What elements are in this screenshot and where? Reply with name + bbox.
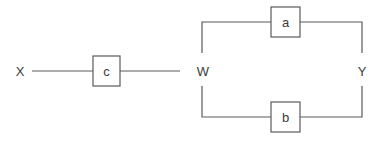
node-x-label: X	[16, 64, 25, 79]
node-y-label: Y	[358, 64, 367, 79]
wire-a-to-y	[300, 22, 362, 53]
block-b-label: b	[282, 110, 289, 125]
wire-w-to-a	[202, 22, 271, 53]
wire-b-to-y	[300, 86, 362, 117]
wire-w-to-b	[202, 86, 271, 117]
node-w-label: W	[197, 64, 210, 79]
block-a-label: a	[282, 15, 290, 30]
series-parallel-diagram: c a b X W Y	[0, 0, 381, 141]
block-c-label: c	[103, 64, 110, 79]
